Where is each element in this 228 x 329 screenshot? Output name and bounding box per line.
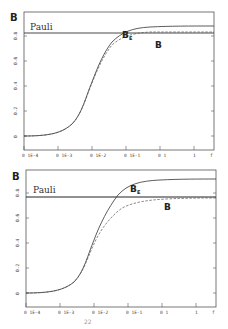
top-chart: 0 0.2 0.4 0.6 0.8 0 1E-4 0 1E-3 0 1E-2 0… (0, 0, 228, 162)
bottom-be-curve (26, 179, 216, 293)
top-b-curve (24, 32, 214, 136)
top-x-ticks (24, 146, 194, 150)
bottom-x-ticks (26, 303, 196, 307)
svg-text:0 1E-1: 0 1E-1 (126, 310, 143, 315)
top-y-tick-labels: 0 0.2 0.4 0.6 0.8 (13, 32, 18, 138)
bottom-y-ticks (26, 193, 216, 293)
bottom-b-label: B (164, 202, 171, 212)
svg-text:0.2: 0.2 (15, 264, 20, 272)
bottom-pauli-label: Pauli (33, 185, 56, 195)
svg-text:0.6: 0.6 (13, 57, 18, 65)
svg-text:0.4: 0.4 (13, 82, 18, 90)
svg-text:0: 0 (15, 292, 20, 295)
svg-text:0 1E-2: 0 1E-2 (92, 310, 109, 315)
svg-text:f: f (210, 153, 213, 158)
svg-text:0 1E-2: 0 1E-2 (90, 153, 107, 158)
svg-text:0.6: 0.6 (15, 214, 20, 222)
svg-text:f: f (212, 310, 215, 315)
svg-text:0 1: 0 1 (160, 310, 168, 315)
bottom-b-curve (26, 198, 216, 293)
svg-text:0 1E-4: 0 1E-4 (22, 153, 39, 158)
top-y-ticks (24, 36, 214, 136)
top-b-label: B (155, 40, 162, 50)
top-be-curve (24, 26, 214, 136)
top-be-label: BE (122, 30, 133, 41)
bottom-be-label: BE (130, 184, 141, 195)
page-caption: 22 (84, 318, 92, 325)
top-pauli-label: Pauli (30, 22, 53, 32)
svg-text:0.8: 0.8 (13, 32, 18, 40)
svg-text:1: 1 (193, 153, 196, 158)
svg-text:0 1: 0 1 (158, 153, 166, 158)
top-x-tick-labels: 0 1E-4 0 1E-3 0 1E-2 0 1E-1 0 1 1 f (22, 153, 213, 158)
svg-text:0: 0 (13, 135, 18, 138)
bottom-y-axis-label: B (12, 171, 20, 182)
bottom-chart: 0 0.2 0.4 0.6 0.8 0 1E-4 0 1E-3 0 1E-2 0… (0, 162, 228, 318)
top-y-axis-label: B (10, 12, 18, 23)
bottom-x-tick-labels: 0 1E-4 0 1E-3 0 1E-2 0 1E-1 0 1 1 f (24, 310, 215, 315)
svg-text:0 1E-3: 0 1E-3 (56, 153, 73, 158)
svg-text:0.4: 0.4 (15, 239, 20, 247)
svg-text:0.8: 0.8 (15, 189, 20, 197)
svg-text:0 1E-4: 0 1E-4 (24, 310, 41, 315)
top-chart-svg: 0 0.2 0.4 0.6 0.8 0 1E-4 0 1E-3 0 1E-2 0… (0, 0, 228, 162)
svg-text:0 1E-3: 0 1E-3 (58, 310, 75, 315)
svg-text:0.2: 0.2 (13, 107, 18, 115)
svg-text:1: 1 (195, 310, 198, 315)
bottom-y-tick-labels: 0 0.2 0.4 0.6 0.8 (15, 189, 20, 295)
svg-text:0 1E-1: 0 1E-1 (124, 153, 141, 158)
bottom-chart-svg: 0 0.2 0.4 0.6 0.8 0 1E-4 0 1E-3 0 1E-2 0… (0, 162, 228, 318)
